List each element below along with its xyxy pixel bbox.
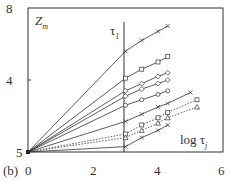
data-marker (195, 105, 200, 110)
data-marker (140, 67, 144, 71)
data-marker (166, 24, 170, 28)
data-marker (139, 81, 144, 86)
data-marker (156, 116, 160, 120)
series-layer (26, 24, 200, 154)
data-marker (124, 103, 128, 107)
x-tick-label: 0 (25, 164, 32, 177)
origin-marker (26, 150, 30, 154)
y-axis-label-sub: m (42, 22, 48, 31)
series-line (28, 57, 168, 152)
data-marker (156, 74, 161, 79)
tau-annotation: τ1 (110, 24, 119, 43)
x-tick-label: 4 (154, 164, 161, 177)
data-marker (156, 92, 160, 96)
data-marker (139, 87, 144, 92)
data-marker (140, 123, 144, 127)
y-axis-label: Zm (35, 14, 48, 33)
x-tick-label: 2 (90, 164, 97, 177)
panel-label: (b) (3, 164, 18, 177)
data-marker (165, 70, 170, 75)
x-axis-label-text: log τ (180, 132, 205, 147)
data-marker (156, 128, 160, 132)
x-axis-label-sub: j (205, 141, 207, 150)
x-axis-label: log τj (180, 133, 207, 152)
data-marker (156, 81, 161, 86)
y-tick-label: 5 (16, 146, 23, 159)
data-marker (165, 115, 170, 120)
data-marker (156, 29, 160, 33)
data-marker (140, 98, 144, 102)
data-marker (139, 128, 144, 132)
data-marker (156, 121, 161, 126)
data-marker (195, 98, 199, 102)
data-marker (166, 89, 170, 93)
data-marker (165, 78, 170, 83)
data-marker (156, 60, 160, 64)
data-marker (124, 76, 128, 80)
y-tick-label: 8 (6, 2, 13, 15)
series-line (28, 91, 168, 152)
x-tick-label: 6 (218, 164, 225, 177)
series-line (28, 80, 168, 152)
data-marker (140, 136, 144, 140)
data-marker (140, 112, 144, 116)
data-marker (166, 101, 170, 105)
series-line (28, 107, 197, 152)
tau-annotation-sub: 1 (115, 32, 119, 41)
data-marker (140, 38, 144, 42)
data-marker (156, 105, 160, 109)
data-marker (166, 110, 170, 114)
data-marker (189, 91, 193, 95)
data-marker (166, 55, 170, 59)
data-marker (166, 123, 170, 127)
y-tick-label: 4 (6, 74, 13, 87)
series-line (28, 26, 168, 152)
